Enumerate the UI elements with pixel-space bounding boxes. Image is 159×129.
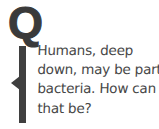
question-text-line: down, may be part	[37, 60, 159, 79]
question-text: Humans, deep down, may be part bacteria.…	[37, 41, 159, 118]
question-callout: Q Humans, deep down, may be part bacteri…	[0, 0, 159, 129]
quote-bar-pointer-icon	[11, 76, 20, 90]
question-letter-q: Q	[8, 1, 48, 45]
question-text-line: Humans, deep	[37, 41, 159, 60]
question-text-line: bacteria. How can	[37, 79, 159, 98]
question-text-line: that be?	[37, 99, 159, 118]
quote-bar-icon	[19, 46, 26, 123]
quote-bar-stem	[19, 46, 26, 123]
